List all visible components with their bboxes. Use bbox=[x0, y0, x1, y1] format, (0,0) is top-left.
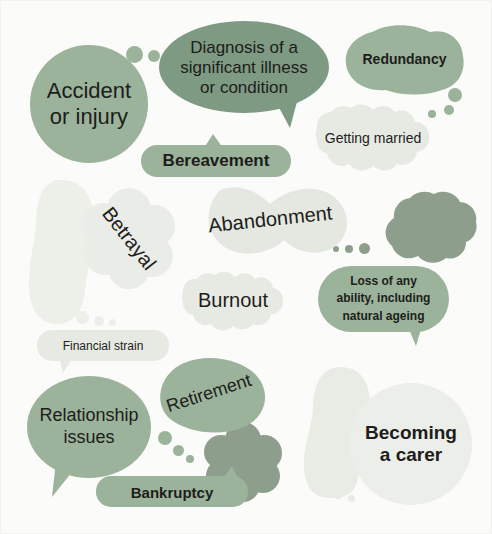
bubble-getting-married[interactable]: Getting married bbox=[293, 102, 453, 175]
bubble-bereavement[interactable]: Bereavement bbox=[141, 134, 291, 179]
carer-line2: a carer bbox=[380, 444, 442, 465]
bean2-dot-2 bbox=[334, 490, 343, 499]
redundancy-dot-1 bbox=[448, 88, 462, 102]
relationship-line2: issues bbox=[63, 427, 114, 447]
carer-line1: Becoming bbox=[365, 422, 457, 443]
redundancy-label: Redundancy bbox=[356, 51, 452, 68]
cloud-dark-shape bbox=[368, 188, 480, 266]
decorative-cloud-dark-right bbox=[368, 188, 480, 266]
diagnosis-line3: or condition bbox=[200, 78, 288, 97]
getting-married-label: Getting married bbox=[319, 130, 427, 147]
burnout-label: Burnout bbox=[192, 289, 274, 313]
loss-line2: ability, including bbox=[337, 291, 431, 305]
accident-line1: Accident bbox=[47, 78, 131, 103]
bankruptcy-label: Bankruptcy bbox=[125, 484, 220, 502]
bubble-bankruptcy[interactable]: Bankruptcy bbox=[96, 466, 248, 510]
financial-strain-label: Financial strain bbox=[57, 339, 150, 353]
diagnosis-line2: significant illness bbox=[180, 58, 308, 77]
loss-line3: natural ageing bbox=[342, 309, 424, 323]
bubble-loss-of-ability[interactable]: Loss of any ability, including natural a… bbox=[318, 264, 449, 348]
bean2-dot-1 bbox=[318, 484, 330, 496]
bean-left-dot-2 bbox=[94, 316, 104, 326]
bubble-collage-canvas: Accident or injury Diagnosis of a signif… bbox=[0, 0, 492, 534]
bubble-becoming-a-carer[interactable]: Becoming a carer bbox=[350, 383, 472, 505]
bubble-abandonment[interactable]: Abandonment bbox=[186, 184, 354, 256]
cloud-dark-dot-1 bbox=[359, 243, 370, 254]
retirement-dot-3 bbox=[186, 455, 194, 463]
bubble-accident-or-injury[interactable]: Accident or injury bbox=[30, 45, 148, 163]
bereavement-label: Bereavement bbox=[157, 151, 276, 171]
bubble-redundancy[interactable]: Redundancy bbox=[342, 22, 467, 100]
bubble-retirement[interactable]: Retirement bbox=[148, 357, 270, 435]
bean-left-dot-1 bbox=[76, 311, 89, 324]
relationship-line1: Relationship bbox=[39, 405, 138, 425]
bubble-burnout[interactable]: Burnout bbox=[163, 270, 303, 332]
accident-line2: or injury bbox=[50, 104, 128, 129]
retirement-dot-1 bbox=[158, 431, 172, 445]
diagnosis-line1: Diagnosis of a bbox=[190, 38, 298, 57]
loss-line1: Loss of any bbox=[350, 274, 417, 288]
bean-left-dot-3 bbox=[109, 319, 116, 326]
retirement-dot-2 bbox=[173, 445, 184, 456]
accident-dot-1 bbox=[126, 46, 143, 63]
bean2-dot-3 bbox=[348, 495, 355, 502]
